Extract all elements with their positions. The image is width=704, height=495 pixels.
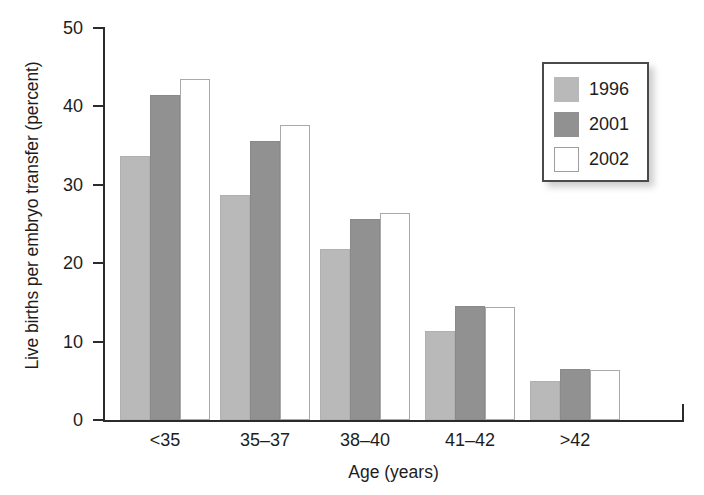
legend-item-1996: 1996: [554, 75, 629, 103]
bar-2002->42: [590, 370, 620, 420]
x-tick-label-3: 41–42: [410, 430, 530, 451]
bar-2002-<35: [180, 79, 210, 420]
y-tick-mark: [93, 262, 105, 264]
x-axis-line: [103, 420, 684, 422]
x-tick-label-4: >42: [515, 430, 635, 451]
bar-2002-38–40: [380, 213, 410, 420]
bar-1996-41–42: [425, 331, 455, 420]
legend-label-2001: 2001: [589, 115, 629, 133]
bar-group: [425, 28, 515, 420]
bar-1996-35–37: [220, 195, 250, 420]
bar-group: [320, 28, 410, 420]
bar-2001-<35: [150, 95, 180, 420]
legend-item-2002: 2002: [554, 145, 629, 173]
y-axis-title: Live births per embryo transfer (percent…: [22, 6, 43, 426]
y-tick-mark: [93, 341, 105, 343]
bar-2002-41–42: [485, 307, 515, 420]
legend-item-2001: 2001: [554, 110, 629, 138]
bar-2001-38–40: [350, 219, 380, 420]
legend-swatch-2002: [554, 147, 579, 172]
bar-1996-38–40: [320, 249, 350, 420]
y-tick-mark: [93, 419, 105, 421]
y-tick-label: 40: [37, 97, 83, 115]
bar-1996-<35: [120, 156, 150, 420]
bar-1996->42: [530, 381, 560, 420]
bar-group: [120, 28, 210, 420]
legend-label-1996: 1996: [589, 80, 629, 98]
x-axis-title: Age (years): [103, 462, 684, 483]
bar-group: [220, 28, 310, 420]
y-tick-label: 20: [37, 254, 83, 272]
bar-2001->42: [560, 369, 590, 420]
y-tick-label: 10: [37, 333, 83, 351]
legend: 199620012002: [542, 62, 649, 182]
bar-chart-figure: Live births per embryo transfer (percent…: [0, 0, 704, 495]
y-tick-label: 50: [37, 19, 83, 37]
legend-swatch-2001: [554, 112, 579, 137]
x-tick-label-2: 38–40: [305, 430, 425, 451]
legend-label-2002: 2002: [589, 150, 629, 168]
bar-2002-35–37: [280, 125, 310, 420]
y-tick-mark: [93, 105, 105, 107]
bar-2001-35–37: [250, 141, 280, 420]
y-tick-mark: [93, 27, 105, 29]
y-tick-label: 0: [37, 411, 83, 429]
legend-swatch-1996: [554, 77, 579, 102]
bar-2001-41–42: [455, 306, 485, 420]
y-tick-label: 30: [37, 176, 83, 194]
y-tick-mark: [93, 184, 105, 186]
